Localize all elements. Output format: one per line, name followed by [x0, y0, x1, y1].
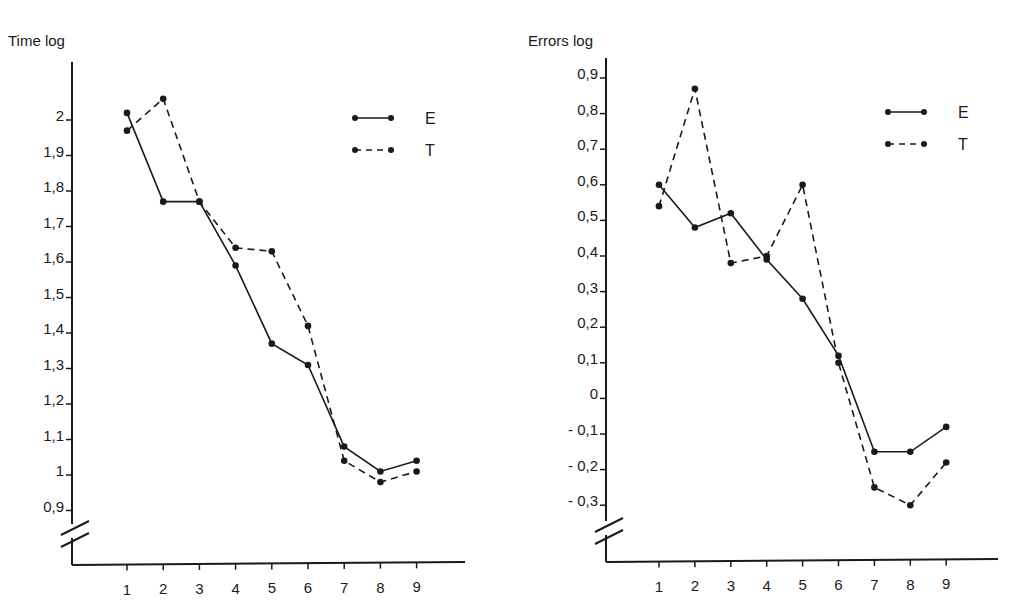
x-tick-label: 1	[655, 578, 663, 595]
data-point	[377, 479, 384, 486]
figure: Time log0,911,11,21,31,41,51,61,71,81,92…	[0, 0, 1018, 609]
y-tick-label: - 0,3	[568, 492, 598, 509]
y-tick-label: 0,3	[577, 279, 598, 296]
y-tick-label: 0,5	[577, 207, 598, 224]
data-point	[799, 295, 806, 302]
y-tick-label: 1	[56, 462, 64, 479]
y-tick-label: 0,1	[577, 350, 598, 367]
y-tick-label: 1,5	[43, 285, 64, 302]
x-axis	[72, 562, 465, 565]
data-point	[656, 182, 663, 189]
y-tick-label: 0	[590, 385, 598, 402]
data-point	[656, 203, 663, 210]
y-tick-label: 0,9	[577, 65, 598, 82]
y-tick-label: - 0,2	[568, 457, 598, 474]
data-point	[692, 224, 699, 231]
data-point	[907, 449, 914, 456]
data-point	[943, 459, 950, 466]
legend: ET	[885, 104, 969, 153]
errors-chart: Errors log- 0,3- 0,2- 0,100,10,20,30,40,…	[528, 32, 998, 595]
data-point	[871, 484, 878, 491]
y-tick-label: 0,8	[577, 101, 598, 118]
y-tick-label: 2	[56, 107, 64, 124]
y-tick-label: 1,4	[43, 320, 64, 337]
y-tick-label: 1,8	[43, 178, 64, 195]
data-point	[835, 360, 842, 367]
data-point	[341, 443, 348, 450]
x-tick-label: 2	[159, 580, 167, 597]
x-tick-label: 3	[727, 577, 735, 594]
x-tick-label: 3	[195, 580, 203, 597]
time-chart: Time log0,911,11,21,31,41,51,61,71,81,92…	[8, 32, 465, 598]
y-tick-label: 1,9	[43, 143, 64, 160]
data-point	[196, 198, 203, 205]
y-tick-label: 1,6	[43, 249, 64, 266]
y-axis-label: Errors log	[528, 32, 593, 49]
data-point	[799, 182, 806, 189]
data-point	[124, 127, 131, 134]
data-point	[160, 198, 167, 205]
data-point	[943, 424, 950, 431]
x-tick-label: 6	[834, 576, 842, 593]
y-tick-label: 1,3	[43, 356, 64, 373]
y-tick-label: 0,6	[577, 172, 598, 189]
data-point	[269, 248, 276, 255]
series-e	[659, 185, 946, 452]
legend-label-t: T	[425, 142, 435, 159]
y-tick-label: - 0,1	[568, 421, 598, 438]
x-tick-label: 2	[691, 577, 699, 594]
x-tick-label: 5	[798, 576, 806, 593]
x-tick-label: 9	[942, 575, 950, 592]
x-tick-label: 8	[906, 576, 914, 593]
data-point	[871, 449, 878, 456]
x-tick-label: 7	[870, 576, 878, 593]
legend-label-e: E	[958, 104, 969, 121]
data-point	[232, 245, 239, 252]
y-tick-label: 0,4	[577, 243, 598, 260]
data-point	[232, 262, 239, 269]
data-point	[160, 95, 167, 102]
y-tick-label: 0,7	[577, 136, 598, 153]
data-point	[377, 468, 384, 475]
data-point	[269, 340, 276, 347]
y-tick-label: 0,2	[577, 314, 598, 331]
y-tick-label: 1,1	[43, 427, 64, 444]
data-point	[413, 468, 420, 475]
x-tick-label: 4	[763, 577, 771, 594]
legend-label-t: T	[958, 136, 968, 153]
x-tick-label: 9	[412, 578, 420, 595]
x-tick-label: 8	[376, 579, 384, 596]
data-point	[763, 253, 770, 260]
y-axis-label: Time log	[8, 32, 65, 49]
y-tick-label: 0,9	[43, 498, 64, 515]
data-point	[907, 502, 914, 509]
data-point	[692, 85, 699, 92]
legend-label-e: E	[425, 110, 436, 127]
series-t	[127, 99, 417, 482]
axis-break-mark	[61, 521, 89, 535]
legend: ET	[352, 110, 436, 159]
data-point	[728, 210, 735, 217]
y-tick-label: 1,2	[43, 391, 64, 408]
y-tick-label: 1,7	[43, 214, 64, 231]
x-tick-label: 6	[304, 579, 312, 596]
series-e	[127, 113, 417, 472]
x-tick-label: 4	[231, 580, 239, 597]
data-point	[413, 458, 420, 465]
data-point	[341, 458, 348, 465]
data-point	[305, 323, 312, 330]
data-point	[124, 110, 131, 117]
data-point	[728, 260, 735, 267]
x-tick-label: 7	[340, 579, 348, 596]
x-tick-label: 5	[268, 579, 276, 596]
x-tick-label: 1	[123, 581, 131, 598]
data-point	[305, 362, 312, 369]
axis-break-mark	[595, 518, 623, 532]
